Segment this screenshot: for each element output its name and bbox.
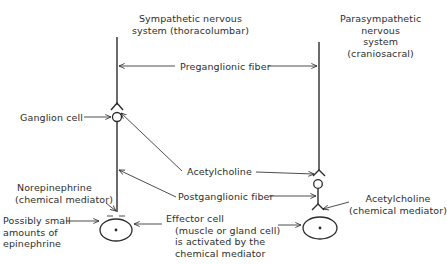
- arrow-postganglionic-left: [119, 170, 176, 197]
- sympathetic-pathway: [100, 37, 132, 241]
- label-epinephrine: Possibly small amounts of epinephrine: [3, 215, 71, 250]
- label-epinephrine-line3: epinephrine: [3, 238, 71, 250]
- parasympathetic-title-line2: nervous: [340, 25, 421, 37]
- sympathetic-ganglion-cell: [113, 113, 122, 122]
- parasympathetic-ganglion-cell: [314, 180, 323, 189]
- parasympathetic-axon-terminal: [313, 170, 325, 176]
- label-norepinephrine-line1: Norepinephrine: [15, 182, 113, 194]
- label-epinephrine-line2: amounts of: [3, 227, 71, 239]
- sympathetic-axon-terminal: [111, 103, 123, 110]
- label-norepinephrine: Norepinephrine (chemical mediator): [15, 182, 113, 205]
- label-effector-line2: (muscle or gland cell): [166, 225, 280, 237]
- sympathetic-title: Sympathetic nervous system (thoracolumba…: [132, 13, 249, 36]
- label-acetylcholine-mediator: Acetylcholine (chemical mediator): [349, 193, 447, 216]
- label-norepinephrine-line2: (chemical mediator): [15, 194, 113, 206]
- label-preganglionic-fiber: Preganglionic fiber: [180, 61, 271, 73]
- label-acetylcholine-center: Acetylcholine: [187, 166, 252, 178]
- arrow-acetylcholine-mediator: [323, 202, 349, 209]
- label-acetylcholine-mediator-line1: Acetylcholine: [349, 193, 447, 205]
- parasympathetic-title: Parasympathetic nervous system (craniosa…: [340, 13, 421, 59]
- parasympathetic-title-line3: system: [340, 36, 421, 48]
- label-effector-line3: is activated by the: [166, 236, 280, 248]
- label-effector-line1: Effector cell: [166, 213, 280, 225]
- label-effector-line4: chemical mediator: [166, 248, 280, 260]
- parasympathetic-postganglionic-terminal: [312, 204, 324, 210]
- parasympathetic-pathway: [303, 42, 337, 239]
- label-ganglion-cell: Ganglion cell: [20, 112, 83, 124]
- sympathetic-title-line2: system (thoracolumbar): [132, 25, 249, 37]
- label-acetylcholine-mediator-line2: (chemical mediator): [349, 205, 447, 217]
- label-effector-cell: Effector cell (muscle or gland cell) is …: [166, 213, 280, 259]
- parasympathetic-effector-nucleus: [319, 227, 322, 230]
- arrow-acetylcholine-right: [256, 172, 314, 174]
- sympathetic-title-line1: Sympathetic nervous: [132, 13, 249, 25]
- sympathetic-effector-nucleus: [115, 229, 118, 232]
- label-postganglionic-fiber: Postganglionic fiber: [178, 191, 274, 203]
- parasympathetic-title-line4: (craniosacral): [340, 48, 421, 60]
- label-epinephrine-line1: Possibly small: [3, 215, 71, 227]
- arrow-acetylcholine-left: [121, 113, 182, 171]
- parasympathetic-title-line1: Parasympathetic: [340, 13, 421, 25]
